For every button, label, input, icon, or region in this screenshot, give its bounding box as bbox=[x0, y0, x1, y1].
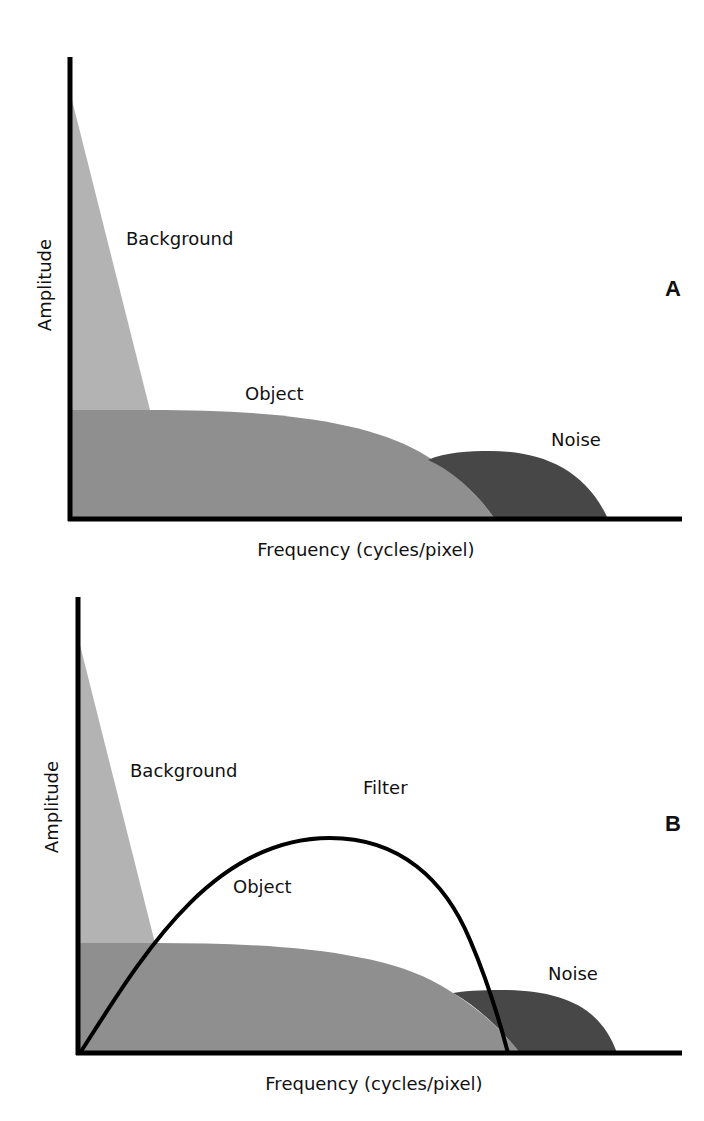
x-axis-label: Frequency (cycles/pixel) bbox=[257, 539, 474, 560]
x-axis-label: Frequency (cycles/pixel) bbox=[265, 1073, 482, 1094]
background-area bbox=[80, 645, 155, 943]
panel-b: Amplitude Frequency (cycles/pixel) Backg… bbox=[41, 597, 682, 1094]
background-label: Background bbox=[130, 760, 237, 781]
noise-label: Noise bbox=[548, 963, 598, 984]
y-axis-label: Amplitude bbox=[41, 761, 62, 853]
object-area bbox=[72, 410, 495, 519]
background-label: Background bbox=[126, 228, 233, 249]
object-label: Object bbox=[245, 383, 304, 404]
object-label: Object bbox=[233, 876, 292, 897]
filter-label: Filter bbox=[363, 777, 408, 798]
panel-a: Amplitude Frequency (cycles/pixel) Backg… bbox=[34, 57, 682, 560]
panel-b-letter: B bbox=[665, 811, 681, 836]
y-axis-label: Amplitude bbox=[34, 239, 55, 331]
object-area bbox=[80, 943, 520, 1053]
panel-a-letter: A bbox=[665, 276, 681, 301]
background-area bbox=[72, 100, 150, 410]
noise-label: Noise bbox=[551, 429, 601, 450]
figure: Amplitude Frequency (cycles/pixel) Backg… bbox=[0, 0, 704, 1121]
